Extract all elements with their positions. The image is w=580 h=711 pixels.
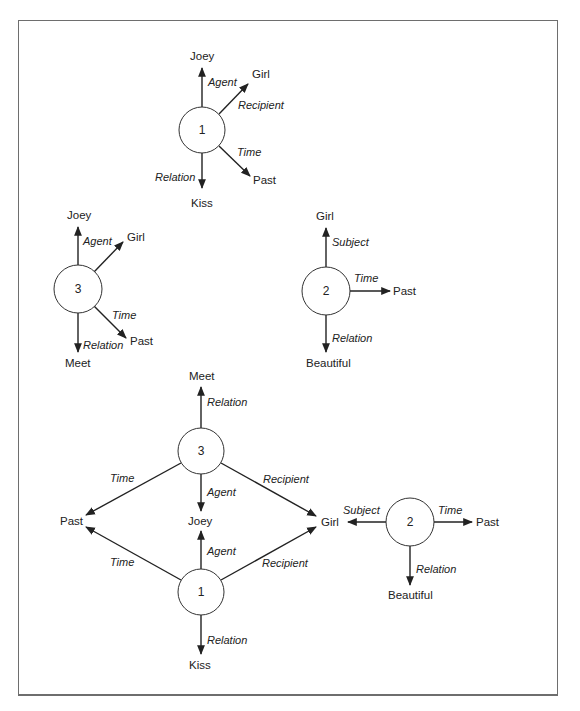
proposition-node-label: 1 [198,585,205,599]
relation-label-recipient: Recipient [262,557,309,569]
proposition-node-label: 2 [323,284,330,298]
proposition-1: JoeyAgentGirlRecipientPastTimeKissRelati… [155,50,285,209]
concept-girl: Girl [252,68,270,80]
proposition-node-label: 1 [199,123,206,137]
edge-time-arrow [86,463,181,515]
proposition-3: JoeyAgentGirlPastTimeMeetRelation3 [54,209,154,369]
concept-beautiful: Beautiful [306,357,351,369]
relation-label-relation: Relation [332,332,372,344]
concept-joey: Joey [188,515,213,527]
relation-label-relation: Relation [83,339,123,351]
relation-label-recipient: Recipient [238,99,285,111]
relation-label-recipient: Recipient [263,473,310,485]
combined-network: RelationTimeAgentRecipientTimeAgentRecip… [60,370,500,671]
concept-past: Past [393,285,417,297]
concept-past: Past [60,515,84,527]
relation-label-relation: Relation [416,563,456,575]
edge-time-arrow [86,527,181,580]
concept-girl: Girl [316,210,334,222]
concept-past: Past [253,174,277,186]
relation-label-relation: Relation [155,171,195,183]
relation-label-agent: Agent [206,545,237,557]
concept-girl: Girl [127,231,145,243]
relation-label-time: Time [438,504,462,516]
relation-label-relation: Relation [207,396,247,408]
concept-beautiful: Beautiful [388,589,433,601]
concept-kiss: Kiss [191,197,213,209]
relation-label-subject: Subject [332,236,370,248]
concept-meet: Meet [189,370,215,382]
relation-label-time: Time [110,556,134,568]
relation-label-subject: Subject [343,504,381,516]
proposition-node-label: 2 [407,515,414,529]
concept-kiss: Kiss [189,659,211,671]
relation-label-time: Time [354,272,378,284]
concept-past: Past [130,335,154,347]
relation-label-time: Time [110,472,134,484]
relation-label-time: Time [112,309,136,321]
concept-past-2: Past [476,516,500,528]
relation-label-time: Time [237,146,261,158]
relation-label-agent: Agent [82,235,113,247]
concept-meet: Meet [65,357,91,369]
relation-label-relation: Relation [207,634,247,646]
concept-joey: Joey [67,209,92,221]
relation-label-agent: Agent [207,76,238,88]
proposition-diagrams: JoeyAgentGirlRecipientPastTimeKissRelati… [54,50,417,369]
proposition-2: GirlSubjectPastTimeBeautifulRelation2 [302,210,417,369]
proposition-node-label: 3 [75,282,82,296]
concept-joey: Joey [190,50,215,62]
relation-label-agent: Agent [206,486,237,498]
proposition-node-label: 3 [198,444,205,458]
propositional-network-diagram: JoeyAgentGirlRecipientPastTimeKissRelati… [0,0,580,711]
concept-girl: Girl [321,516,339,528]
